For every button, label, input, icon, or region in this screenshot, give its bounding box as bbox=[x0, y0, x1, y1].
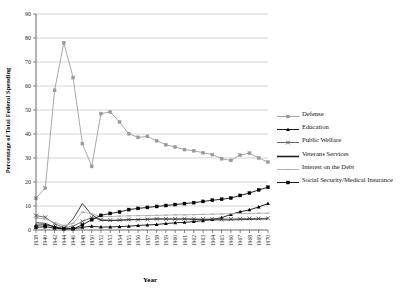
svg-text:0: 0 bbox=[28, 227, 31, 233]
legend-item[interactable]: Veterans Services bbox=[276, 147, 418, 160]
svg-text:1948: 1948 bbox=[80, 235, 86, 246]
svg-text:1953: 1953 bbox=[107, 235, 113, 246]
legend-item[interactable]: Social Security/Medical Insurance bbox=[276, 173, 418, 186]
svg-text:1955: 1955 bbox=[126, 235, 132, 246]
data-series-group bbox=[34, 41, 270, 230]
svg-text:1954: 1954 bbox=[117, 235, 123, 246]
series-defense bbox=[35, 41, 270, 200]
svg-text:30: 30 bbox=[25, 155, 31, 161]
svg-text:1965: 1965 bbox=[219, 235, 225, 246]
legend-marker-dash-icon bbox=[276, 161, 300, 172]
legend-item[interactable]: Interest on the Debt bbox=[276, 160, 418, 173]
legend-item[interactable]: Defense bbox=[276, 107, 418, 120]
svg-text:70: 70 bbox=[25, 59, 31, 65]
svg-text:10: 10 bbox=[25, 203, 31, 209]
x-axis-ticks: 1938194019421944194619481950195219531954… bbox=[33, 230, 271, 246]
legend-marker-triangle-icon bbox=[276, 121, 300, 132]
svg-text:1962: 1962 bbox=[191, 235, 197, 246]
svg-text:1942: 1942 bbox=[52, 235, 58, 246]
legend-label: Public Welfare bbox=[302, 136, 341, 143]
svg-text:1944: 1944 bbox=[61, 235, 67, 246]
svg-text:1950: 1950 bbox=[89, 235, 95, 246]
svg-text:1940: 1940 bbox=[42, 235, 48, 246]
svg-text:1938: 1938 bbox=[33, 235, 39, 246]
legend-label: Veterans Services bbox=[302, 150, 349, 157]
legend-marker-none-icon bbox=[276, 148, 300, 159]
svg-text:1969: 1969 bbox=[256, 235, 262, 246]
svg-text:1958: 1958 bbox=[154, 235, 160, 246]
svg-text:1966: 1966 bbox=[228, 235, 234, 246]
svg-text:1946: 1946 bbox=[70, 235, 76, 246]
svg-text:90: 90 bbox=[25, 11, 31, 17]
svg-text:1957: 1957 bbox=[145, 235, 151, 246]
svg-text:80: 80 bbox=[25, 35, 31, 41]
gridlines bbox=[36, 14, 268, 206]
svg-text:1967: 1967 bbox=[237, 235, 243, 246]
svg-text:1960: 1960 bbox=[172, 235, 178, 246]
svg-text:1964: 1964 bbox=[210, 235, 216, 246]
series-public-welfare bbox=[34, 214, 270, 230]
legend-marker-cross-icon bbox=[276, 134, 300, 145]
svg-text:40: 40 bbox=[25, 131, 31, 137]
legend-item[interactable]: Public Welfare bbox=[276, 133, 418, 146]
svg-text:1968: 1968 bbox=[247, 235, 253, 246]
legend-label: Interest on the Debt bbox=[302, 163, 354, 170]
svg-text:1961: 1961 bbox=[182, 235, 188, 246]
legend-label: Social Security/Medical Insurance bbox=[302, 176, 393, 183]
svg-text:50: 50 bbox=[25, 107, 31, 113]
chart-legend: DefenseEducationPublic WelfareVeterans S… bbox=[276, 107, 418, 186]
legend-label: Education bbox=[302, 123, 329, 130]
svg-text:1952: 1952 bbox=[98, 235, 104, 246]
legend-marker-square-icon bbox=[276, 108, 300, 119]
legend-item[interactable]: Education bbox=[276, 120, 418, 133]
svg-text:1956: 1956 bbox=[135, 235, 141, 246]
svg-text:1963: 1963 bbox=[200, 235, 206, 246]
legend-marker-square-icon bbox=[276, 174, 300, 185]
svg-text:20: 20 bbox=[25, 179, 31, 185]
chart-figure: Percentage of Total Federal Spending 010… bbox=[0, 0, 418, 295]
svg-text:1959: 1959 bbox=[163, 235, 169, 246]
svg-text:60: 60 bbox=[25, 83, 31, 89]
legend-label: Defense bbox=[302, 110, 324, 117]
x-axis-title: Year bbox=[30, 276, 270, 284]
svg-text:1970: 1970 bbox=[265, 235, 271, 246]
